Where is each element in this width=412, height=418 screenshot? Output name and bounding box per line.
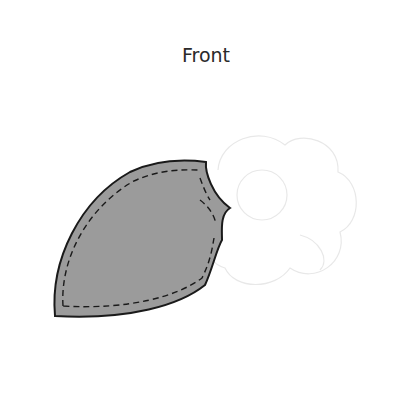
ghost-flower-outline: [209, 136, 356, 285]
pattern-diagram: [0, 0, 412, 418]
petal-shape: [54, 161, 230, 317]
